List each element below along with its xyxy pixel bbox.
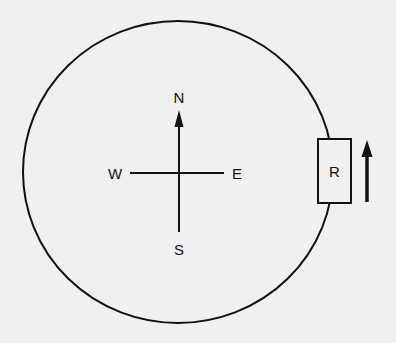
diagram-svg: N S W E R bbox=[0, 0, 396, 343]
label-north: N bbox=[174, 89, 185, 106]
compass: N S W E bbox=[108, 89, 242, 258]
label-south: S bbox=[174, 241, 184, 258]
object-r-label: R bbox=[329, 163, 340, 180]
motion-arrow bbox=[362, 140, 373, 202]
up-arrow-icon bbox=[362, 140, 373, 157]
label-west: W bbox=[108, 165, 123, 182]
label-east: E bbox=[232, 165, 242, 182]
object-r: R bbox=[318, 139, 351, 203]
diagram-canvas: N S W E R bbox=[0, 0, 396, 343]
north-arrow-icon bbox=[175, 110, 184, 127]
